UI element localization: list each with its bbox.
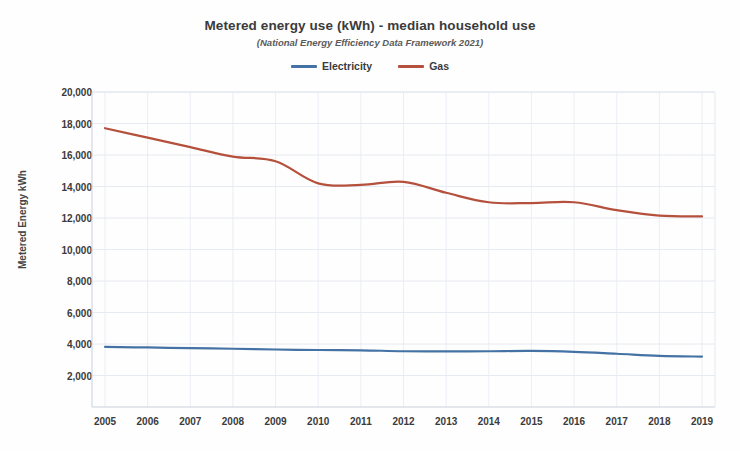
x-tick-label: 2017	[606, 416, 628, 427]
x-tick-label: 2013	[435, 416, 457, 427]
x-tick-label: 2010	[307, 416, 329, 427]
x-tick-label: 2005	[94, 416, 116, 427]
x-tick-label: 2012	[392, 416, 414, 427]
x-tick-label: 2007	[179, 416, 201, 427]
x-tick-label: 2015	[520, 416, 542, 427]
plot-area: Metered Energy kWh 2,0004,0006,0008,0001…	[0, 0, 740, 451]
x-tick-label: 2008	[222, 416, 244, 427]
x-tick-label: 2019	[691, 416, 713, 427]
x-tick-label: 2016	[563, 416, 585, 427]
x-tick-label: 2014	[478, 416, 500, 427]
x-tick-label: 2006	[137, 416, 159, 427]
plot-svg	[0, 0, 740, 451]
chart-page: Metered energy use (kWh) - median househ…	[0, 0, 740, 451]
x-tick-label: 2009	[264, 416, 286, 427]
x-tick-label: 2018	[648, 416, 670, 427]
x-tick-label: 2011	[350, 416, 372, 427]
